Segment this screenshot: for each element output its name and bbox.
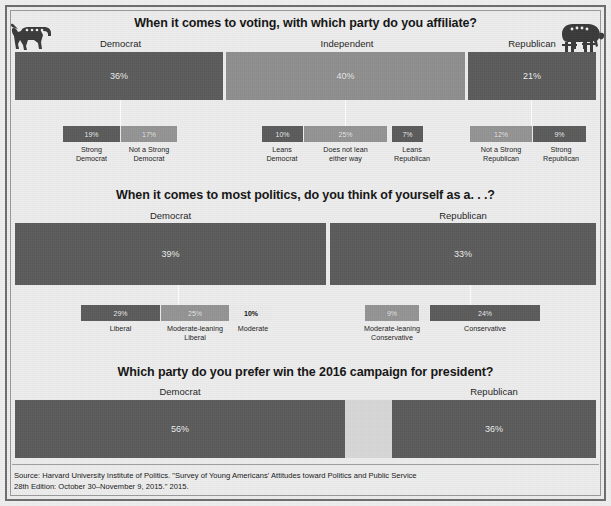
section-1-group-label-republican: Republican [468, 38, 596, 49]
source-note: Source: Harvard University Institute of … [14, 470, 594, 492]
section-1-sublabel-strong-democrat: Strong Democrat [63, 145, 120, 163]
section-1-sublabel-leans-republican: Leans Republican [386, 145, 438, 163]
infographic-root: When it comes to voting, with which part… [0, 0, 611, 506]
section-2-subbar-moderate-leaning-liberal: 25% [161, 305, 229, 321]
section-2-sublabel-liberal: Liberal [81, 324, 160, 333]
section-1-sublabel-not-strong-democrat: Not a Strong Democrat [121, 145, 177, 163]
connector-line [470, 285, 471, 305]
section-2-group-label-democrat: Democrat [15, 210, 326, 221]
section-1-group-label-independent: Independent [226, 38, 468, 49]
section-2-subbar-conservative: 24% [430, 305, 540, 321]
connector-line [120, 100, 121, 126]
section-1-subbar-leans-republican: 7% [392, 126, 423, 142]
section-2-title: When it comes to most politics, do you t… [0, 188, 611, 202]
section-2-bar-republican: 33% [330, 223, 596, 285]
section-2-sublabel-moderate-leaning-liberal: Moderate-leaning Liberal [158, 324, 232, 342]
section-1-bar-independent: 40% [226, 52, 465, 100]
section-1-bar-democrat: 36% [15, 52, 223, 100]
section-3-title: Which party do you prefer win the 2016 c… [0, 365, 611, 379]
section-1-group-label-democrat: Democrat [15, 38, 226, 49]
connector-line [178, 285, 179, 305]
section-2-subbar-moderate: 10% [230, 305, 272, 321]
section-1-sublabel-strong-republican: Strong Republican [533, 145, 589, 163]
section-1-sublabel-not-strong-republican: Not a Strong Republican [470, 145, 532, 163]
section-2-bar-democrat: 39% [15, 223, 326, 285]
section-3-bar-republican: 36% [392, 400, 596, 458]
section-3-group-label-democrat: Democrat [15, 386, 345, 397]
section-2-subbar-gap [420, 305, 429, 321]
section-2-sublabel-moderate: Moderate [231, 324, 275, 333]
section-1-subbar-leans-democrat: 10% [262, 126, 303, 142]
section-3-group-label-republican: Republican [392, 386, 596, 397]
section-3-bar-democrat: 56% [15, 400, 345, 458]
section-2-subbar-liberal: 29% [81, 305, 160, 321]
footer-divider [12, 464, 599, 465]
section-1-subbar-not-strong-democrat: 17% [121, 126, 177, 142]
section-1-subbar-strong-republican: 9% [533, 126, 586, 142]
section-1-bar-republican: 21% [468, 52, 596, 100]
section-2-subbar-moderate-leaning-conservative: 9% [365, 305, 419, 321]
section-1-title: When it comes to voting, with which part… [0, 16, 611, 30]
section-1-subbar-not-strong-republican: 12% [470, 126, 532, 142]
section-2-sublabel-moderate-leaning-conservative: Moderate-leaning Conservative [353, 324, 431, 342]
connector-line [531, 100, 532, 126]
section-2-sublabel-conservative: Conservative [430, 324, 540, 333]
section-1-sublabel-does-not-lean: Does not lean either way [304, 145, 387, 163]
section-2-group-label-republican: Republican [330, 210, 596, 221]
section-1-subbar-does-not-lean: 25% [304, 126, 387, 142]
connector-line [345, 100, 346, 126]
section-1-subbar-strong-democrat: 19% [63, 126, 120, 142]
section-1-sublabel-leans-democrat: Leans Democrat [258, 145, 306, 163]
section-3-bar-gap [345, 400, 392, 458]
